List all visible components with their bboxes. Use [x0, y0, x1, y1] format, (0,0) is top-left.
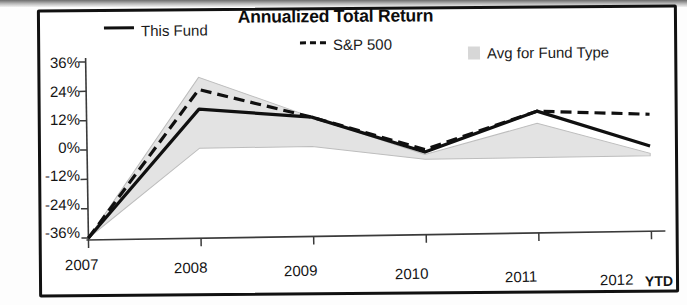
y-axis-tick-marks: [79, 62, 89, 238]
chart-screenshot: Annualized Total Return This Fund S&P 50…: [0, 0, 687, 305]
chart-canvas: Annualized Total Return This Fund S&P 50…: [0, 0, 687, 305]
y-axis-line: [86, 58, 89, 240]
avg-fund-type-band: [86, 70, 651, 238]
x-axis-tick-marks: [88, 231, 651, 248]
x-axis-line: [86, 231, 665, 240]
plot-svg: [0, 0, 687, 305]
